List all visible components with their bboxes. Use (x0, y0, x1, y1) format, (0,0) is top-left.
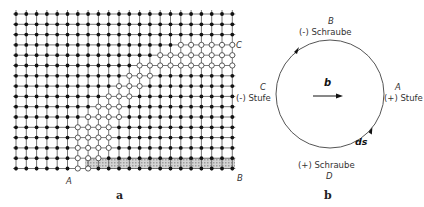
point-label-a-right: A (394, 82, 401, 92)
edge-positive-label: (+) Stufe (384, 93, 423, 103)
screw-positive-label: (+) Schraube (298, 160, 355, 170)
screw-negative-label: (-) Schraube (299, 27, 352, 37)
line-element-label: ds (355, 136, 368, 147)
panel-caption-a: a (116, 189, 123, 202)
point-label-c: C (236, 40, 242, 50)
arrowhead-icon (336, 94, 343, 99)
edge-negative-label: (-) Stufe (236, 93, 271, 103)
crystal-lattice-panel: A B C a (13, 10, 243, 202)
dislocation-loop-circle (276, 40, 384, 148)
arrowhead-icon (368, 127, 374, 135)
point-label-d-bottom: D (326, 171, 333, 181)
point-label-b: B (237, 173, 243, 183)
burgers-circuit-panel: b ds B (-) Schraube C (-) Stufe A (+) St… (236, 16, 423, 202)
dislocation-figure: A B C a b ds B (-) Schraube C (-) Stufe … (0, 0, 424, 207)
point-label-b-top: B (328, 16, 334, 26)
burgers-vector-label: b (324, 77, 331, 88)
panel-caption-b: b (324, 189, 332, 202)
point-label-a: A (65, 176, 72, 186)
point-label-c-left: C (260, 82, 266, 92)
